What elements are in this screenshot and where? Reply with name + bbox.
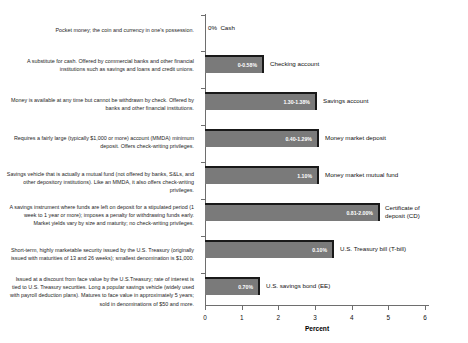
bar-certificate-of-deposit: 0.81-2.00% xyxy=(205,203,380,221)
chart-figure: Pocket money; the coin and currency in o… xyxy=(0,0,468,343)
description-money-market-deposit: Requires a fairly large (typically $1,00… xyxy=(6,134,194,150)
bar-value-money-market-deposit: 0.40-1.29% xyxy=(285,136,312,142)
description-cash: Pocket money; the coin and currency in o… xyxy=(6,26,194,34)
bar-category-checking-account: Checking account xyxy=(270,60,319,68)
x-axis-tick-label-2: 2 xyxy=(277,314,281,321)
bar-checking-account: 0-0.58% xyxy=(205,55,264,73)
bar-savings-bond: 0.70% xyxy=(205,277,260,295)
bar-value-checking-account: 0-0.58% xyxy=(238,62,257,68)
x-axis-tick-label-6: 6 xyxy=(423,314,427,321)
description-treasury-bill: Short-term, highly marketable security i… xyxy=(6,246,194,262)
x-axis-tick xyxy=(352,306,353,310)
bar-value-savings-bond: 0.70% xyxy=(238,284,253,290)
x-axis-tick xyxy=(388,306,389,310)
description-checking-account: A substitute for cash. Offered by commer… xyxy=(6,57,194,73)
x-axis-title: Percent xyxy=(205,325,429,332)
description-savings-account: Money is available at any time but canno… xyxy=(6,96,194,112)
y-axis-tick xyxy=(201,273,205,274)
x-axis-tick xyxy=(425,306,426,310)
x-axis-tick xyxy=(242,306,243,310)
y-axis-tick xyxy=(201,88,205,89)
bar-value-money-market-mutual-fund: 1.10% xyxy=(297,173,312,179)
bar-money-market-deposit: 0.40-1.29% xyxy=(205,129,319,147)
description-money-market-mutual-fund: Savings vehicle that is actually a mutua… xyxy=(6,170,194,195)
description-certificate-of-deposit: A savings instrument where funds are lef… xyxy=(6,203,194,228)
description-column: Pocket money; the coin and currency in o… xyxy=(0,0,200,343)
bar-value-savings-account: 1.30-1.38% xyxy=(283,99,310,105)
y-axis-tick xyxy=(201,199,205,200)
bar-category-money-market-deposit: Money market deposit xyxy=(325,134,386,142)
bar-category-certificate-of-deposit: Certificate of deposit (CD) xyxy=(385,204,437,219)
description-savings-bond: Issued at a discount from face value by … xyxy=(6,275,194,308)
x-axis-line xyxy=(205,305,429,306)
bar-category-savings-bond: U.S. savings bond (EE) xyxy=(266,282,330,290)
x-axis-tick xyxy=(205,306,206,310)
x-axis-tick-label-0: 0 xyxy=(203,314,207,321)
bar-value-certificate-of-deposit: 0.81-2.00% xyxy=(346,210,373,216)
x-axis-tick-label-1: 1 xyxy=(240,314,244,321)
plot-area: 0% Cash 0-0.58% Checking account 1.30-1.… xyxy=(205,14,429,306)
y-axis-tick xyxy=(201,162,205,163)
bar-category-cash: Cash xyxy=(220,24,234,31)
y-axis-tick xyxy=(201,15,205,16)
x-axis-tick-label-5: 5 xyxy=(387,314,391,321)
bar-savings-account: 1.30-1.38% xyxy=(205,92,317,110)
bar-value-cash: 0% xyxy=(208,24,217,31)
x-axis-tick-label-4: 4 xyxy=(350,314,354,321)
y-axis-tick xyxy=(201,236,205,237)
bar-category-treasury-bill: U.S. Treasury bill (T-bill) xyxy=(340,245,406,253)
x-axis-tick-label-3: 3 xyxy=(313,314,317,321)
bar-value-treasury-bill: 0.10% xyxy=(312,247,327,253)
bar-category-money-market-mutual-fund: Money market mutual fund xyxy=(325,171,398,179)
bar-label-cash: 0% Cash xyxy=(208,24,235,31)
bar-category-savings-account: Savings account xyxy=(323,97,368,105)
x-axis-tick xyxy=(315,306,316,310)
x-axis-tick xyxy=(278,306,279,310)
y-axis-tick xyxy=(201,51,205,52)
bar-treasury-bill: 0.10% xyxy=(205,240,334,258)
bar-money-market-mutual-fund: 1.10% xyxy=(205,166,319,184)
y-axis-tick xyxy=(201,125,205,126)
